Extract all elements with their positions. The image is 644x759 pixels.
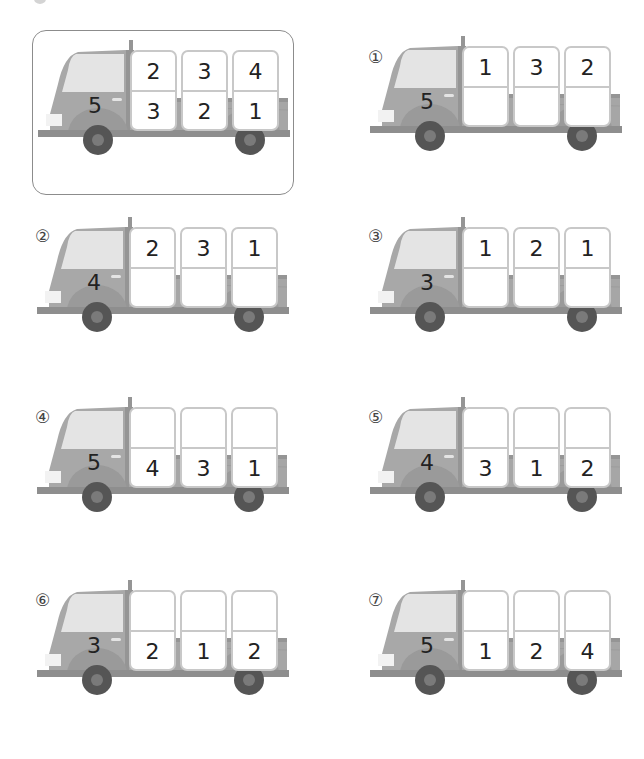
- cab-number: 5: [405, 89, 449, 114]
- cargo-box-2: 3: [513, 46, 560, 127]
- cab-number: 4: [72, 270, 116, 295]
- cargo-box-1: 2: [129, 590, 176, 671]
- cell-top[interactable]: [233, 409, 276, 447]
- problem-number-label: ⑥: [35, 592, 50, 609]
- cell-top[interactable]: 3: [183, 52, 226, 90]
- cell-bottom[interactable]: [566, 88, 609, 126]
- cell-top[interactable]: [182, 409, 225, 447]
- cargo-box-3: 1: [564, 227, 611, 308]
- cell-bottom[interactable]: 3: [132, 92, 175, 130]
- cell-top[interactable]: [464, 592, 507, 630]
- problem-number-label: ④: [35, 409, 50, 426]
- example-truck: 5 2 3 3 2 4 1: [38, 14, 328, 164]
- cell-bottom[interactable]: [464, 269, 507, 307]
- cell-bottom[interactable]: 4: [566, 632, 609, 670]
- cell-top[interactable]: 1: [233, 229, 276, 267]
- problem-number-label: ②: [35, 228, 50, 245]
- cell-bottom[interactable]: [515, 269, 558, 307]
- cell-bottom[interactable]: 1: [515, 449, 558, 487]
- cell-top[interactable]: 2: [131, 229, 174, 267]
- cell-bottom[interactable]: 2: [566, 449, 609, 487]
- cell-top[interactable]: [464, 409, 507, 447]
- problem-number-label: ①: [368, 49, 383, 66]
- cell-bottom[interactable]: [515, 88, 558, 126]
- cell-bottom[interactable]: [566, 269, 609, 307]
- cell-bottom[interactable]: 2: [131, 632, 174, 670]
- cell-top[interactable]: [131, 592, 174, 630]
- cab-number: 3: [72, 633, 116, 658]
- cargo-box-3: 2: [231, 590, 278, 671]
- cargo-box-1: 2 3: [130, 50, 177, 131]
- cargo-box-3: 4: [564, 590, 611, 671]
- cell-top[interactable]: 4: [234, 52, 277, 90]
- cargo-box-3: 1: [231, 227, 278, 308]
- cargo-box-1: 4: [129, 407, 176, 488]
- cargo-box-3: 2: [564, 407, 611, 488]
- cell-top[interactable]: [566, 409, 609, 447]
- cell-top[interactable]: [182, 592, 225, 630]
- cell-top[interactable]: 3: [182, 229, 225, 267]
- cargo-box-2: 3: [180, 407, 227, 488]
- cargo-box-3: 1: [231, 407, 278, 488]
- cell-bottom[interactable]: 2: [183, 92, 226, 130]
- cell-bottom[interactable]: 1: [233, 449, 276, 487]
- problem-number-label: ⑤: [368, 409, 383, 426]
- cell-bottom[interactable]: 2: [233, 632, 276, 670]
- cargo-box-3: 2: [564, 46, 611, 127]
- problem-truck-5: 4 3 1 2: [370, 371, 644, 521]
- problem-truck-2: 4 2 3 1: [37, 191, 327, 341]
- cargo-box-3: 4 1: [232, 50, 279, 131]
- cargo-box-2: 2: [513, 227, 560, 308]
- cargo-box-2: 1: [513, 407, 560, 488]
- cell-bottom[interactable]: [182, 269, 225, 307]
- cell-bottom[interactable]: [233, 269, 276, 307]
- cell-top[interactable]: [515, 409, 558, 447]
- cell-bottom[interactable]: 1: [182, 632, 225, 670]
- cell-top[interactable]: 3: [515, 48, 558, 86]
- problem-truck-4: 5 4 3 1: [37, 371, 327, 521]
- cargo-box-2: 2: [513, 590, 560, 671]
- cargo-box-1: 1: [462, 227, 509, 308]
- cell-bottom[interactable]: 3: [464, 449, 507, 487]
- problem-truck-6: 3 2 1 2: [37, 554, 327, 704]
- cab-number: 5: [405, 633, 449, 658]
- cell-top[interactable]: 2: [132, 52, 175, 90]
- cargo-box-2: 1: [180, 590, 227, 671]
- cell-top[interactable]: 1: [464, 48, 507, 86]
- cargo-box-2: 3: [180, 227, 227, 308]
- cell-bottom[interactable]: [131, 269, 174, 307]
- cell-top[interactable]: 1: [464, 229, 507, 267]
- cab-number: 4: [405, 450, 449, 475]
- problem-truck-3: 3 1 2 1: [370, 191, 644, 341]
- cargo-box-1: 3: [462, 407, 509, 488]
- cell-top[interactable]: 2: [515, 229, 558, 267]
- problem-number-label: ③: [368, 228, 383, 245]
- cell-top[interactable]: [566, 592, 609, 630]
- cell-bottom[interactable]: 4: [131, 449, 174, 487]
- cab-number: 5: [72, 450, 116, 475]
- problem-truck-1: 5 1 3 2: [370, 10, 644, 160]
- cell-bottom[interactable]: 1: [464, 632, 507, 670]
- problem-truck-7: 5 1 2 4: [370, 554, 644, 704]
- cell-bottom[interactable]: 1: [234, 92, 277, 130]
- cell-top[interactable]: [131, 409, 174, 447]
- cell-top[interactable]: 2: [566, 48, 609, 86]
- cargo-box-1: 1: [462, 46, 509, 127]
- cab-number: 3: [405, 270, 449, 295]
- cell-bottom[interactable]: [464, 88, 507, 126]
- cargo-box-1: 2: [129, 227, 176, 308]
- cell-bottom[interactable]: 3: [182, 449, 225, 487]
- problem-number-label: ⑦: [368, 592, 383, 609]
- cell-top[interactable]: [233, 592, 276, 630]
- cell-top[interactable]: 1: [566, 229, 609, 267]
- cargo-box-1: 1: [462, 590, 509, 671]
- cab-number: 5: [73, 93, 117, 118]
- cell-top[interactable]: [515, 592, 558, 630]
- bullet-icon: [34, 0, 46, 4]
- cargo-box-2: 3 2: [181, 50, 228, 131]
- cell-bottom[interactable]: 2: [515, 632, 558, 670]
